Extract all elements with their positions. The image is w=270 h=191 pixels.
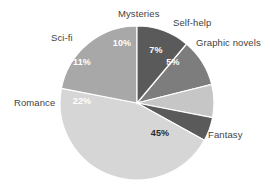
slice-value-sci-fi: 11% (73, 57, 91, 67)
category-label-graphic-novels: Graphic novels (196, 38, 261, 48)
pie-chart-canvas: 10%7%5%45%22%11% (0, 0, 270, 191)
slice-value-romance: 22% (73, 96, 92, 106)
category-label-mysteries: Mysteries (118, 9, 160, 19)
slice-value-fantasy: 45% (151, 128, 170, 138)
category-label-self-help: Self-help (173, 18, 211, 28)
category-label-fantasy: Fantasy (208, 130, 243, 140)
slice-value-graphic-novels: 5% (166, 57, 179, 67)
slice-value-mysteries: 10% (113, 38, 132, 48)
category-label-sci-fi: Sci-fi (51, 33, 73, 43)
pie-chart: 10%7%5%45%22%11% MysteriesSelf-helpGraph… (0, 0, 270, 191)
category-label-romance: Romance (14, 98, 55, 108)
slice-value-self-help: 7% (149, 45, 162, 55)
